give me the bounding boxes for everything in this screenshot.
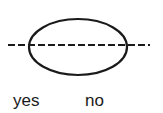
label-no: no [85, 92, 104, 109]
oval-shape [29, 19, 127, 75]
label-yes: yes [13, 92, 39, 109]
